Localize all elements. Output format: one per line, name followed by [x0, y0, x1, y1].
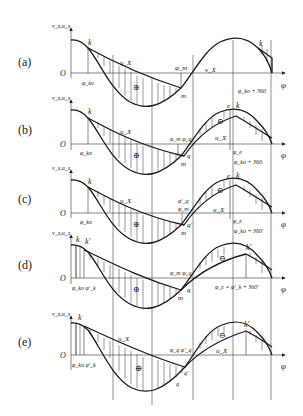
label-phi-ko: φ_ko φ'_k — [72, 362, 96, 368]
minus-sign: ⊖ — [219, 254, 226, 263]
label-ux: u_X — [120, 128, 132, 136]
label-ux2: u_X — [215, 134, 227, 142]
label-phi-ko: φ_ko — [82, 80, 94, 86]
label-m: m — [181, 229, 186, 237]
label-k: k — [88, 38, 92, 47]
minus-sign: ⊖ — [217, 186, 224, 195]
plus-sign: ⊕ — [133, 83, 140, 92]
label-ux2: u_X — [216, 347, 228, 355]
label-ux2: u_X — [213, 206, 225, 214]
label-m: m — [181, 160, 186, 168]
label-phi-end: φ_e = φ'_k + 360' — [215, 284, 259, 290]
label-k2: k — [259, 39, 263, 48]
label-q: q — [187, 152, 191, 160]
label-q: q — [187, 286, 191, 294]
panel-label: (c) — [18, 192, 31, 206]
label-k: k — [88, 107, 92, 116]
label-k2: k — [236, 101, 240, 110]
origin-label: O — [60, 351, 66, 360]
label-k2: k' — [244, 320, 250, 329]
axis-y-label: v_x,u_x — [52, 23, 71, 29]
label-k: k — [78, 313, 82, 322]
plus-sign: ⊕ — [133, 285, 140, 294]
plus-sign: ⊕ — [133, 220, 140, 229]
valve-timing-waveform-diagram: (a) v_x,u_x O φ k u_X φ_m v_X k φ_ko ⊕ m… — [0, 0, 303, 416]
label-phi-e: φ_e — [233, 218, 242, 224]
x-axis-label: φ — [281, 80, 286, 90]
label-m: m — [181, 92, 186, 100]
panel-label: (d) — [18, 258, 32, 272]
label-phi-end: φ_ko + 360 — [234, 159, 262, 165]
label-q: q' — [187, 221, 193, 229]
panel-label: (a) — [18, 55, 31, 69]
label-phi-ko: φ_ko — [80, 219, 92, 225]
label-phi-m-q: φ_m φ_q — [170, 136, 191, 142]
label-q-prime: q' — [184, 370, 189, 376]
label-phi-e: φ_e — [233, 149, 242, 155]
origin-label: O — [60, 209, 66, 218]
label-phi-q: φ'_q — [178, 198, 189, 204]
x-axis-label: φ — [281, 284, 286, 294]
axis-y-label: v_x,u_x — [52, 230, 71, 236]
label-k: k — [88, 177, 92, 186]
label-vx: v_X — [205, 66, 217, 74]
label-ux: u_X — [120, 59, 132, 67]
x-axis-label: φ — [281, 361, 286, 371]
label-k2: k — [236, 171, 240, 180]
plus-sign: ⊕ — [133, 151, 140, 160]
label-phi-q: φ_q φ'_q — [170, 347, 191, 353]
axis-y-label: v_x,u_x — [52, 165, 71, 171]
label-k-prime: k' — [85, 237, 91, 246]
label-phi-m: φ_m — [178, 206, 189, 212]
x-axis-label: φ — [281, 150, 286, 160]
label-ux: u_X — [120, 197, 132, 205]
label-e: e — [227, 172, 230, 180]
label-m: m — [178, 294, 183, 302]
ux-curve — [88, 185, 272, 225]
origin-label: O — [60, 274, 66, 283]
panel-label: (e) — [18, 335, 31, 349]
axis-y-label: v_x,u_x — [52, 311, 71, 317]
label-phi-end: φ_ko + 360' — [234, 228, 264, 234]
label-phi-m-q: φ_m φ_q — [170, 270, 191, 276]
label-phi-end: φ_ko + 360 — [238, 88, 266, 94]
label-phi-m: φ_m — [175, 64, 187, 72]
label-ux: u_X — [118, 335, 130, 343]
origin-label: O — [60, 69, 66, 78]
axis-y-label: v_x,u_x — [52, 95, 71, 101]
origin-label: O — [60, 140, 66, 149]
label-phi-ko: φ_ko — [80, 150, 92, 156]
label-e: e — [227, 102, 230, 110]
panel-label: (b) — [18, 123, 32, 137]
vx-curve — [71, 38, 272, 106]
minus-sign: ⊖ — [219, 331, 226, 340]
label-k2: k' — [246, 243, 252, 252]
label-q: q — [176, 381, 179, 387]
plus-sign: ⊕ — [135, 363, 143, 373]
label-k: k — [76, 235, 80, 244]
x-axis-label: φ — [281, 219, 286, 229]
label-phi-ko: φ_ko φ'_k — [72, 285, 96, 291]
minus-sign: ⊖ — [217, 117, 224, 126]
